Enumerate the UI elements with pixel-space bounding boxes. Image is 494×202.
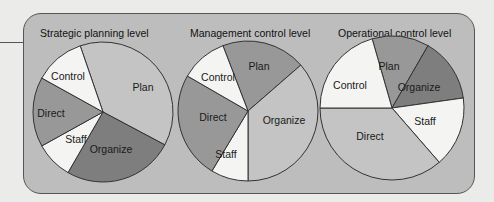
slice-label-control: Control: [51, 70, 85, 82]
slice-label-control: Control: [333, 79, 367, 91]
slice-label-organize: Organize: [90, 143, 133, 155]
pie-strategic-planning: PlanOrganizeStaffDirectControl: [33, 42, 173, 182]
slice-label-organize: Organize: [398, 81, 441, 93]
pie-operational-control: PlanOrganizeStaffDirectControl: [320, 36, 464, 180]
slice-label-direct: Direct: [37, 107, 65, 119]
slice-label-plan: Plan: [248, 60, 269, 72]
slice-label-direct: Direct: [356, 130, 384, 142]
slice-label-staff: Staff: [414, 115, 435, 127]
slice-label-direct: Direct: [199, 111, 227, 123]
pie-charts: PlanOrganizeStaffDirectControl PlanOrgan…: [0, 0, 494, 202]
slice-label-organize: Organize: [263, 114, 306, 126]
slice-label-staff: Staff: [65, 133, 86, 145]
slice-label-staff: Staff: [215, 148, 236, 160]
slice-label-plan: Plan: [378, 60, 399, 72]
slice-label-plan: Plan: [132, 81, 153, 93]
slice-label-control: Control: [201, 71, 235, 83]
pie-management-control: PlanOrganizeStaffDirectControl: [178, 41, 318, 181]
